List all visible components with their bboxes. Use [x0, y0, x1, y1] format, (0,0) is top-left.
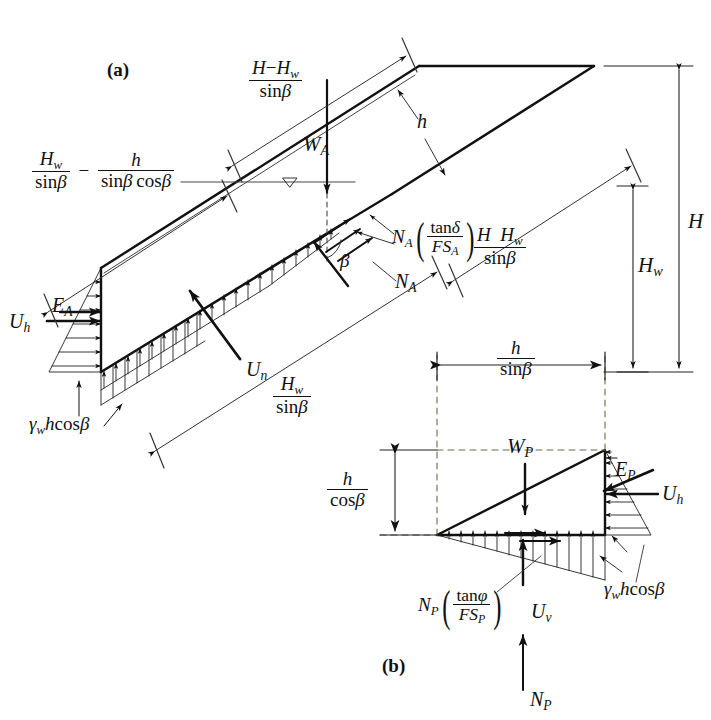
panel-tag-a: (a) — [107, 59, 129, 81]
force-label-NA-tandelta-over-FSA: NA( tanδ FSA ) — [392, 218, 478, 258]
dim-label-h-thickness: h — [417, 110, 427, 133]
gamma-b-leader-2 — [600, 556, 622, 572]
dim-tick-left-1 — [228, 150, 242, 182]
panel-tag-b: (b) — [382, 655, 405, 677]
force-label-NP-tanphi-over-FSP: NP( tanφ FSP ) — [418, 586, 505, 626]
dim-label-Hw: Hw — [638, 253, 663, 280]
force-label-EA: EA — [52, 294, 73, 320]
NA-label-leader — [373, 262, 396, 281]
angle-label-beta: β — [340, 250, 349, 272]
dim-tick-right-1 — [402, 38, 417, 72]
dim-label-H-minus-Hw-over-sinbeta-right: H Hw sinβ — [474, 225, 526, 268]
force-label-Un: Un — [246, 358, 267, 384]
gamma-b-leader-1 — [612, 536, 627, 552]
dim-label-h-over-cosbeta: h cosβ — [327, 469, 368, 510]
force-label-Uh-a: Uh — [9, 310, 30, 336]
slope-stability-wedge-figure: (a) (b) H−Hw sinβ Hw sinβ − h sinβ cosβ … — [0, 0, 711, 720]
pressure-label-gamma-w-h-cos-beta-b: γwhcosβ — [604, 578, 664, 603]
dim-label-h-over-sinbeta: h sinβ — [497, 338, 535, 379]
gamma-b-leader-3 — [636, 545, 644, 582]
panel-a-geometry — [44, 38, 693, 468]
force-label-WA: WA — [303, 132, 329, 159]
panel-b-geometry — [380, 352, 658, 690]
gamma-leader-2 — [104, 404, 122, 426]
force-label-EP: EP — [615, 458, 636, 484]
pressure-label-gamma-w-h-cos-beta-a: γwhcosβ — [29, 413, 89, 438]
dim-label-H: H — [688, 209, 703, 234]
dim-label-Hw-over-sinbeta-lower: Hw sinβ — [273, 374, 311, 417]
force-label-NA: NA — [395, 270, 417, 296]
dim-H-minus-Hw-right — [449, 149, 641, 297]
force-label-NP: NP — [530, 688, 552, 714]
toe-block-base — [101, 341, 205, 405]
NA-tan-leader-2 — [357, 232, 394, 244]
force-label-Uv: Uv — [531, 600, 552, 626]
force-label-Uh-b: Uh — [662, 482, 683, 508]
passive-wedge-triangle — [437, 450, 605, 535]
dim-H-vertical — [604, 66, 693, 372]
force-label-WP: WP — [507, 434, 533, 461]
dim-h-over-cosbeta — [380, 450, 437, 535]
NA-tan-leader-1 — [370, 215, 394, 234]
toe-pressure-block — [101, 314, 205, 406]
dim-label-Hw-over-sinbeta-minus-h: Hw sinβ − h sinβ cosβ — [32, 149, 174, 192]
figure-vector-canvas — [0, 0, 711, 720]
dim-label-H-minus-Hw-over-sinbeta: H−Hw sinβ — [249, 58, 302, 101]
